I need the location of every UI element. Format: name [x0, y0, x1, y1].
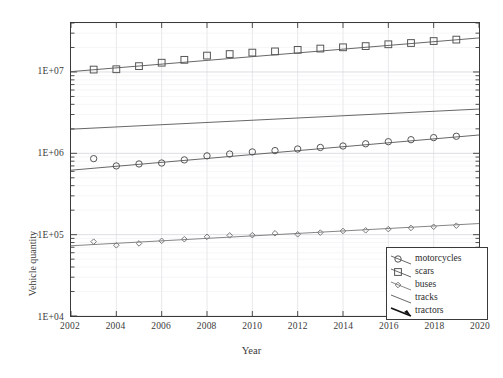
x-axis-tick: 2020: [470, 321, 490, 331]
y-axis-tick: 1E+06: [38, 148, 64, 158]
legend-item-motorcycles[interactable]: motorcycles: [390, 251, 483, 264]
legend-label: tractors: [412, 305, 444, 315]
y-axis-title-wrap: Vehicle quantity: [14, 110, 34, 250]
legend-item-tracks[interactable]: tracks: [390, 290, 483, 303]
legend-label: tracks: [412, 292, 438, 302]
legend-item-tractors[interactable]: tractors: [390, 303, 483, 316]
x-axis-tick: 2002: [60, 321, 80, 331]
x-axis-tick: 2012: [288, 321, 308, 331]
chart-legend[interactable]: motorcyclesscarsbusestrackstractors: [386, 247, 488, 320]
legend-key-diamond-icon: [390, 278, 412, 290]
x-axis-title: Year: [0, 345, 503, 356]
legend-key-circle-icon: [390, 252, 412, 264]
y-axis-tick: 1E+07: [38, 66, 64, 76]
x-axis-tick: 2006: [151, 321, 171, 331]
legend-key-square-icon: [390, 265, 412, 277]
legend-label: buses: [412, 279, 436, 289]
x-axis-tick: 2014: [333, 321, 353, 331]
legend-key-line-bold-icon: [390, 304, 412, 316]
y-axis-title: Vehicle quantity: [27, 204, 38, 324]
legend-label: scars: [412, 266, 434, 276]
legend-label: motorcycles: [412, 253, 461, 263]
legend-key-line-icon: [390, 291, 412, 303]
x-axis-tick-labels: 2002200420062008201020122014201620182020: [70, 321, 480, 337]
x-axis-tick: 2004: [106, 321, 126, 331]
x-axis-tick: 2010: [242, 321, 262, 331]
x-axis-tick: 2018: [425, 321, 445, 331]
legend-item-scars[interactable]: scars: [390, 264, 483, 277]
y-axis-tick: 1E+05: [38, 230, 64, 240]
x-axis-tick: 2008: [197, 321, 217, 331]
vehicle-quantity-chart: 1E+071E+061E+051E+04 Vehicle quantity 20…: [0, 0, 503, 378]
x-axis-tick: 2016: [379, 321, 399, 331]
legend-item-buses[interactable]: buses: [390, 277, 483, 290]
